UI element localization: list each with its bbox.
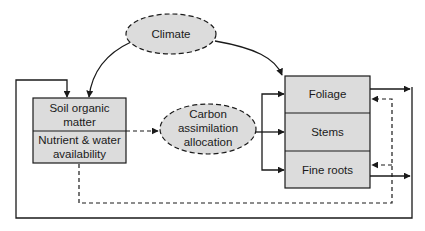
allocation-arrows [256, 94, 284, 170]
nutrient-label-2: availability [53, 148, 106, 160]
fine-roots-label: Fine roots [302, 164, 353, 176]
carbon-label-line-1: Carbon [189, 108, 227, 120]
carbon-to-fine-roots-arrow [262, 132, 284, 170]
climate-to-foliage-arrow [215, 41, 282, 75]
stems-label: Stems [311, 126, 344, 138]
climate-to-soil-arrow [89, 42, 131, 97]
plant-box: Foliage Stems Fine roots [285, 76, 370, 188]
soil-organic-label-2: matter [63, 116, 96, 128]
nutrient-label-1: Nutrient & water [38, 134, 121, 146]
climate-node: Climate [126, 14, 216, 54]
carbon-label-line-2: assimilation [178, 122, 238, 134]
carbon-to-foliage-arrow [262, 94, 284, 132]
carbon-label-line-3: allocation [184, 136, 233, 148]
carbon-node: Carbon assimilation allocation [160, 104, 256, 154]
carbon-allocation-diagram: Climate Carbon assimilation allocation S… [0, 0, 425, 231]
climate-label: Climate [152, 28, 191, 40]
soil-box: Soil organic matter Nutrient & water ava… [33, 98, 126, 163]
foliage-label: Foliage [309, 88, 347, 100]
soil-organic-label-1: Soil organic [49, 102, 109, 114]
